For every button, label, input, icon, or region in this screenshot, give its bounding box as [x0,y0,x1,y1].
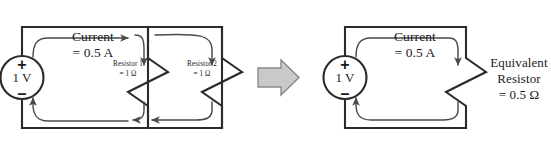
right-current-label-line1: Current [370,29,460,44]
left-flow-return [33,98,128,121]
equivalent-resistor-label-line2: Resistor [487,71,551,87]
right-source-value: 1 V [325,71,365,86]
equivalent-resistor-label-line3: = 0.5 Ω [487,87,551,103]
diagram-canvas [0,0,551,152]
equivalence-arrow-shape [258,60,299,95]
left-resistor-2-value: = 1 Ω [180,70,224,79]
left-source-minus-sign: – [12,86,32,102]
right-current-label-line2: = 0.5 A [370,45,460,60]
left-current-label-line1: Current [48,29,138,44]
equivalent-resistor-label-line1: Equivalent [487,55,551,71]
right-flow-return [356,98,458,120]
left-current-label-line2: = 0.5 A [48,45,138,60]
left-flow-out-r2 [152,102,212,120]
left-source-value: 1 V [2,71,42,86]
right-source-minus-sign: – [335,86,355,102]
left-resistor-1-name: Resistor 1 [106,60,150,69]
circuit-diagram-figure: + 1 V – Current = 0.5 A Resistor 1 = 1 Ω… [0,0,551,152]
left-resistor-1-value: = 1 Ω [106,70,150,79]
left-flow-out-r1 [133,102,144,120]
left-resistor-2-name: Resistor 2 [180,60,224,69]
